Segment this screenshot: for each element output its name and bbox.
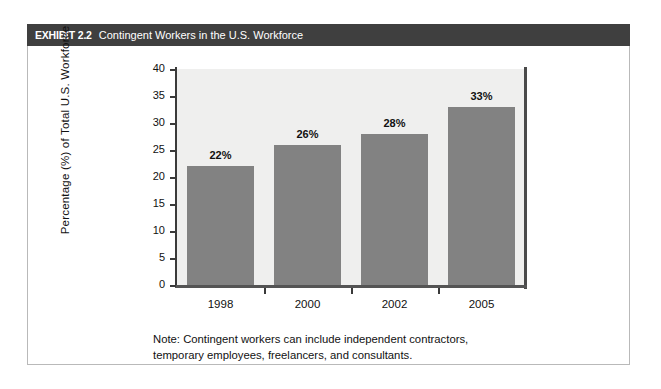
exhibit-header-bar: EXHIBIT 2.2 Contingent Workers in the U.… [27,24,630,46]
bar-2005 [448,107,515,285]
x-tick-label-2002: 2002 [360,298,430,310]
y-tick [170,96,176,98]
exhibit-title: Contingent Workers in the U.S. Workforce [99,29,303,41]
y-tick [170,204,176,206]
note-line-2: temporary employees, freelancers, and co… [153,347,573,363]
bar-value-label: 22% [191,149,251,161]
y-tick-label: 35 [139,89,165,101]
x-tick [264,288,266,294]
y-axis-title: Percentage (%) of Total U.S. Workforce [59,20,71,240]
y-tick [170,123,176,125]
y-tick-label: 10 [139,224,165,236]
x-tick-label-2000: 2000 [273,298,343,310]
bar-2002 [361,134,428,285]
x-tick-label-1998: 1998 [186,298,256,310]
y-tick-label: 20 [139,170,165,182]
chart-figure: Percentage (%) of Total U.S. Workforce 0… [27,46,630,365]
x-tick [351,288,353,294]
y-tick [170,69,176,71]
y-tick [170,150,176,152]
y-tick [170,231,176,233]
bar-value-label: 33% [452,90,512,102]
y-tick [170,177,176,179]
y-tick-label: 30 [139,116,165,128]
y-tick [170,258,176,260]
bar-value-label: 28% [365,117,425,129]
note-line-1: Note: Contingent workers can include ind… [153,331,573,347]
y-tick-label: 40 [139,62,165,74]
x-tick-label-2005: 2005 [447,298,517,310]
chart-note: Note: Contingent workers can include ind… [153,331,573,363]
plot-right-edge [524,67,527,289]
y-tick-label: 15 [139,197,165,209]
y-tick-label: 5 [139,251,165,263]
y-tick-label: 25 [139,143,165,155]
y-tick [170,285,176,287]
y-tick-label: 0 [139,278,165,290]
bar-value-label: 26% [278,128,338,140]
bar-1998 [187,166,254,285]
bar-2000 [274,145,341,285]
x-tick [438,288,440,294]
